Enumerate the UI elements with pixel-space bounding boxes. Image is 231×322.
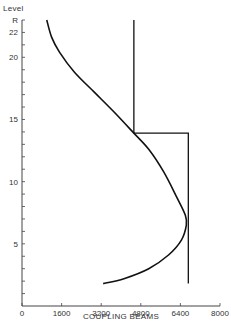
x-tick-label: 8000: [211, 309, 229, 318]
y-tick-label: 20: [9, 53, 18, 62]
series-layer: [47, 20, 189, 284]
chart: Level 510152022R 016003200480064008000 C…: [0, 0, 231, 322]
y-axis-title: Level: [3, 4, 24, 13]
x-tick-label: 1600: [53, 309, 71, 318]
series-curve-line: [47, 20, 187, 284]
x-axis-title: COUPLING BEAMS: [83, 312, 159, 321]
series-step-line: [134, 20, 188, 284]
y-axis-ticks: 510152022R: [9, 16, 25, 294]
x-tick-label: 6400: [172, 309, 190, 318]
y-tick-label: 15: [9, 115, 18, 124]
x-tick-label: 0: [20, 309, 25, 318]
y-tick-label: R: [12, 16, 18, 25]
y-tick-label: 10: [9, 178, 18, 187]
y-tick-label: 22: [9, 28, 18, 37]
y-tick-label: 5: [14, 240, 19, 249]
axes: [22, 20, 220, 306]
